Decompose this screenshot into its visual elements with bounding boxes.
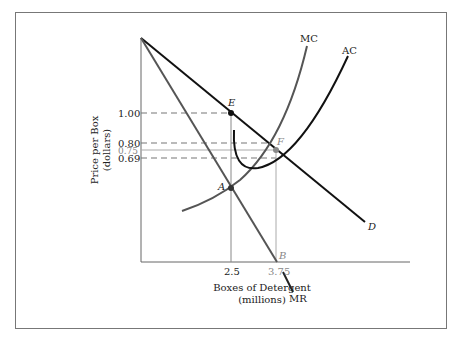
point-b-label: B — [278, 250, 286, 261]
x-axis-title-line1: Boxes of Detergent — [213, 282, 311, 293]
x-tick-3-75: 3.75 — [268, 266, 290, 277]
demand-curve — [141, 38, 365, 222]
point-e-label: E — [227, 97, 236, 108]
marginal-cost-curve — [182, 46, 307, 211]
x-tick-2-5: 2.5 — [224, 266, 240, 277]
y-axis-title-line2: (dollars) — [101, 129, 112, 172]
point-a-label: A — [217, 181, 225, 192]
y-axis-title-line1: Price per Box — [89, 115, 100, 184]
average-cost-curve — [234, 56, 348, 168]
point-e-dot — [228, 110, 234, 116]
mr-label: MR — [289, 293, 307, 304]
d-label: D — [367, 221, 376, 232]
point-f-dot — [273, 147, 279, 153]
x-axis-title-line2: (millions) — [238, 294, 286, 305]
y-tick-1-00: 1.00 — [118, 108, 140, 119]
y-tick-0-69: 0.69 — [118, 153, 140, 164]
monopoly-diagram: E A F B MC AC D MR 1.00 0.80 0.75 0.69 2… — [0, 0, 460, 342]
point-a-dot — [228, 185, 234, 191]
point-f-label: F — [276, 136, 285, 147]
mc-label: MC — [300, 33, 318, 44]
ac-label: AC — [341, 45, 357, 56]
